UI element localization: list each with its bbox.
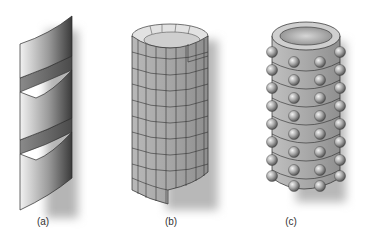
panel-a-label: (a) bbox=[28, 216, 58, 227]
panel-b-grid-cylinder bbox=[132, 24, 218, 210]
panel-c-label: (c) bbox=[276, 216, 306, 227]
figure-canvas bbox=[0, 0, 378, 241]
panel-c-bead-cylinder bbox=[267, 22, 347, 202]
panel-a-helix bbox=[20, 16, 78, 218]
panel-b-label: (b) bbox=[156, 216, 186, 227]
